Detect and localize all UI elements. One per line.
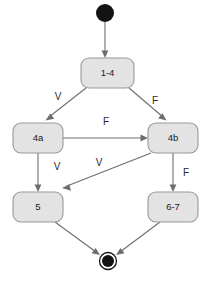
edge-label-4b-to-5: V bbox=[96, 157, 103, 168]
final-state-icon bbox=[102, 255, 114, 267]
edge-5-to-final bbox=[55, 222, 100, 255]
edge-label-4b-to-6-7: F bbox=[183, 167, 189, 178]
diagram-canvas: V F F V bbox=[0, 0, 209, 282]
node-label: 6-7 bbox=[166, 201, 180, 212]
edge-4a-to-5: V bbox=[35, 153, 61, 192]
edge-line bbox=[67, 153, 151, 186]
node-4b[interactable]: 4b bbox=[148, 123, 198, 153]
node-5[interactable]: 5 bbox=[13, 192, 63, 222]
edge-label-1-4-to-4a: V bbox=[55, 91, 62, 102]
edge-4b-to-6-7: F bbox=[170, 153, 189, 192]
edge-label-4a-to-4b: F bbox=[103, 116, 109, 127]
edge-1-4-to-4a: V bbox=[46, 88, 87, 121]
node-label: 5 bbox=[35, 201, 40, 212]
initial-state-node bbox=[96, 4, 114, 22]
edge-1-4-to-4b: F bbox=[129, 88, 167, 121]
arrow-head-icon bbox=[102, 51, 109, 59]
edge-line bbox=[55, 222, 96, 252]
edge-4b-to-5: V bbox=[62, 153, 151, 191]
initial-state-icon bbox=[96, 4, 114, 22]
state-diagram: V F F V bbox=[0, 0, 209, 282]
node-label: 4a bbox=[33, 132, 44, 143]
arrow-head-icon bbox=[141, 135, 149, 142]
final-state-node bbox=[100, 253, 117, 270]
node-4a[interactable]: 4a bbox=[13, 123, 63, 153]
edge-initial-to-1-4 bbox=[102, 22, 109, 58]
arrow-head-icon bbox=[62, 184, 71, 191]
edge-4a-to-4b: F bbox=[63, 116, 148, 142]
arrow-head-icon bbox=[35, 185, 42, 193]
node-label: 4b bbox=[168, 132, 179, 143]
node-1-4[interactable]: 1-4 bbox=[81, 58, 134, 88]
edge-label-4a-to-5: V bbox=[54, 161, 61, 172]
edge-label-1-4-to-4b: F bbox=[152, 95, 158, 106]
node-label: 1-4 bbox=[101, 67, 115, 78]
arrow-head-icon bbox=[170, 185, 177, 193]
node-6-7[interactable]: 6-7 bbox=[148, 192, 198, 222]
edge-6-7-to-final bbox=[116, 222, 160, 255]
edge-line bbox=[120, 222, 160, 252]
